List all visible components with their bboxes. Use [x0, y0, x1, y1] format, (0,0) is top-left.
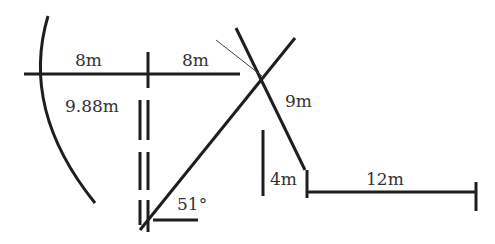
label-short-vertical: 4m [270, 169, 297, 189]
label-horizontal-segment: 12m [366, 169, 404, 189]
label-right-span: 8m [182, 50, 209, 70]
dashed-vertical-double-line [140, 100, 148, 232]
label-vertical-length: 9.88m [65, 96, 119, 116]
label-angle: 51° [177, 194, 207, 214]
label-diagonal-segment: 9m [285, 91, 312, 111]
long-diagonal-line [140, 38, 295, 230]
diagram-canvas: 8m 8m 9.88m 9m 4m 12m 51° [0, 0, 495, 244]
label-left-span: 8m [75, 50, 102, 70]
thin-guide-line [216, 40, 262, 76]
